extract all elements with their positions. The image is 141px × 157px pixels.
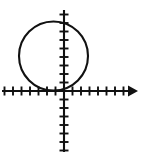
plot-shapes: [19, 22, 88, 91]
graph-canvas: [0, 0, 141, 157]
x-axis-arrowhead-icon: [128, 86, 138, 97]
circle-curve: [19, 22, 88, 91]
y-axis: [60, 10, 69, 152]
graph-figure: [0, 0, 141, 157]
